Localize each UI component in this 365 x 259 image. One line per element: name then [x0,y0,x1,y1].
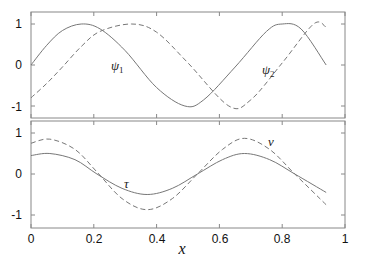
curve-τ [31,153,326,194]
label-psi1: ψ1 [111,58,124,75]
ytick-top-1: 1 [15,17,22,31]
label-nu: ν [268,134,274,149]
x-axis-label: x [177,240,185,257]
top-panel-frame [31,12,345,118]
xtick-0.6: 0.6 [212,232,229,246]
curve-ψ2 [31,22,326,109]
ytick-bottom-neg1: -1 [11,208,22,222]
xtick-1: 1 [342,232,349,246]
bottom-panel-frame [31,121,345,228]
ytick-top-0: 0 [15,58,22,72]
axis-ticks [31,12,345,228]
ytick-bottom-1: 1 [15,126,22,140]
ytick-bottom-0: 0 [15,167,22,181]
xtick-0.8: 0.8 [274,232,291,246]
ytick-top-neg1: -1 [11,100,22,114]
xtick-0.4: 0.4 [149,232,166,246]
xtick-0.2: 0.2 [86,232,103,246]
curve-ν [31,138,326,209]
label-psi2: ψ2 [262,62,275,79]
label-tau: τ [124,176,130,191]
curve-ψ1 [31,24,326,107]
xtick-0: 0 [28,232,35,246]
chart-figure: 1 0 -1 1 0 -1 0 0.2 0.4 0.6 0.8 1 ψ1 ψ2 … [0,0,365,259]
